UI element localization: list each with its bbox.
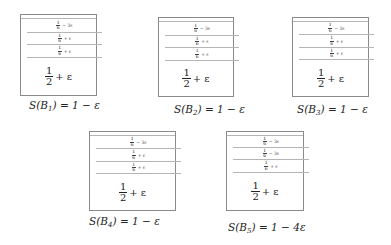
fraction: 16 (194, 24, 198, 34)
label-suffix: ) = 1 − 4ε (251, 221, 305, 233)
bin-b1-item-1: 16− 3ε (27, 19, 102, 33)
term: + ε (138, 165, 146, 170)
bin-b3-item-2: 16+ ε (299, 35, 374, 48)
bin-b2: 16− 3ε 16+ ε 16+ ε 12+ ε (158, 17, 234, 97)
bin-b4: 16− 3ε 16+ ε 16+ ε 12+ ε (89, 131, 176, 211)
term: + ε (64, 36, 72, 41)
fraction: 12 (45, 66, 53, 87)
term: + ε (129, 187, 146, 198)
denominator: 6 (57, 26, 60, 31)
bin-b1-item-2: 16+ ε (27, 33, 102, 45)
bin-b2-item-3: 16+ ε (165, 48, 239, 61)
denominator: 6 (330, 42, 333, 47)
term: + ε (138, 153, 146, 158)
fraction: 16 (264, 161, 268, 171)
bin-b4-item-3: 16+ ε (96, 162, 181, 174)
bin-b4-item-2: 16+ ε (96, 149, 181, 162)
bin-b5-item-2: 16− 3ε (233, 148, 309, 160)
bin-b3-item-large: 12+ ε (293, 60, 368, 96)
denominator: 6 (58, 39, 61, 44)
bin-b2-item-2: 16+ ε (165, 36, 239, 48)
denominator: 6 (58, 52, 61, 57)
fraction: 12 (119, 182, 127, 203)
denominator: 2 (318, 79, 324, 89)
bin-b4-item-1: 16− 3ε (96, 136, 181, 149)
numerator: 1 (119, 182, 127, 193)
denominator: 2 (46, 77, 52, 87)
bin-b3-item-3: 16+ ε (299, 48, 374, 60)
fraction: 16 (132, 163, 136, 173)
term: + ε (201, 52, 209, 57)
label-prefix: S(B (174, 103, 193, 115)
fraction: 16 (58, 46, 62, 56)
label-prefix: S(B (297, 103, 316, 115)
bin-b1-label: S(B1) = 1 − ε (29, 99, 100, 113)
bin-b5-item-3: 16+ ε (233, 160, 309, 173)
term: − 3ε (269, 151, 279, 156)
denominator: 6 (132, 156, 135, 161)
bin-b5: 16− 3ε 16− 3ε 16+ ε 12+ ε (226, 131, 304, 211)
fraction: 16 (263, 149, 267, 159)
bin-b1: 16− 3ε 16+ ε 16+ ε 12+ ε (20, 14, 97, 96)
bin-b3: 16− 3ε 16+ ε 16+ ε 12+ ε (292, 17, 369, 97)
bin-b5-item-large: 12+ ε (227, 173, 303, 210)
term: + ε (55, 71, 72, 82)
fraction: 16 (195, 37, 199, 47)
fraction: 16 (58, 34, 62, 44)
label-suffix: ) = 1 − ε (320, 103, 367, 115)
bin-b5-label: S(B5) = 1 − 4ε (228, 221, 306, 235)
bin-b4-label: S(B4) = 1 − ε (89, 215, 160, 229)
bin-b3-label: S(B3) = 1 − ε (297, 103, 368, 117)
term: + ε (201, 39, 209, 44)
label-suffix: ) = 1 − ε (52, 99, 99, 111)
bin-b3-item-1: 16− 3ε (299, 22, 374, 35)
denominator: 2 (252, 192, 258, 202)
fraction: 16 (195, 49, 199, 59)
fraction: 12 (251, 181, 259, 202)
fraction: 16 (328, 23, 332, 33)
numerator: 1 (317, 68, 325, 79)
label-suffix: ) = 1 − ε (197, 103, 244, 115)
bin-b5-item-1: 16− 3ε (233, 136, 309, 148)
term: − 3ε (62, 23, 72, 28)
denominator: 6 (132, 168, 135, 173)
denominator: 6 (329, 29, 332, 34)
term: + ε (327, 73, 344, 84)
label-suffix: ) = 1 − ε (112, 215, 159, 227)
term: + ε (336, 51, 344, 56)
bin-b2-item-1: 16− 3ε (165, 22, 239, 36)
denominator: 6 (330, 54, 333, 59)
denominator: 6 (263, 154, 266, 159)
term: − 3ε (136, 140, 146, 145)
fraction: 12 (182, 68, 190, 89)
bin-b1-item-large: 12+ ε (21, 58, 96, 95)
term: − 3ε (200, 26, 210, 31)
fraction: 16 (263, 137, 267, 147)
denominator: 6 (196, 55, 199, 60)
term: + ε (270, 164, 278, 169)
denominator: 2 (183, 79, 189, 89)
bin-b4-item-large: 12+ ε (90, 174, 175, 210)
fraction: 16 (330, 49, 334, 59)
denominator: 6 (194, 29, 197, 34)
fraction: 16 (130, 137, 134, 147)
term: + ε (336, 39, 344, 44)
bin-b2-label: S(B2) = 1 − ε (174, 103, 245, 117)
denominator: 6 (196, 42, 199, 47)
term: − 3ε (269, 139, 279, 144)
term: − 3ε (334, 26, 344, 31)
fraction: 16 (330, 36, 334, 46)
denominator: 6 (263, 142, 266, 147)
bin-b1-item-3: 16+ ε (27, 45, 102, 58)
denominator: 6 (265, 167, 268, 172)
label-prefix: S(B (29, 99, 48, 111)
fraction: 16 (132, 150, 136, 160)
label-prefix: S(B (228, 221, 247, 233)
fraction: 12 (317, 68, 325, 89)
term: + ε (193, 73, 210, 84)
denominator: 6 (131, 143, 134, 148)
fraction: 16 (56, 21, 60, 31)
label-prefix: S(B (89, 215, 108, 227)
term: + ε (262, 186, 279, 197)
term: + ε (64, 49, 72, 54)
